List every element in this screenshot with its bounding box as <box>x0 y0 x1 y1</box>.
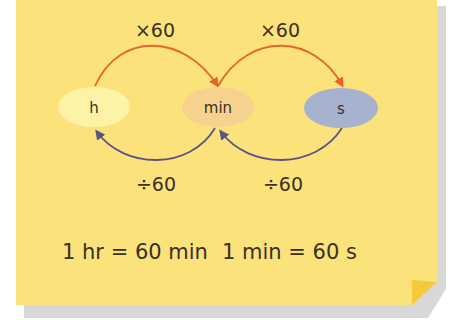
label-multiply-h-min: ×60 <box>135 19 175 41</box>
node-label-s: s <box>337 100 345 118</box>
conversion-diagram: h min s ×60 ×60 ÷60 ÷60 1 hr = 60 min 1 … <box>0 0 454 320</box>
label-divide-min-h: ÷60 <box>136 173 176 195</box>
equation-minutes: 1 min = 60 s <box>222 240 357 264</box>
label-divide-s-min: ÷60 <box>263 173 303 195</box>
label-multiply-min-s: ×60 <box>260 19 300 41</box>
equation-hours: 1 hr = 60 min <box>62 240 208 264</box>
node-label-min: min <box>204 99 232 117</box>
node-label-h: h <box>89 99 99 117</box>
